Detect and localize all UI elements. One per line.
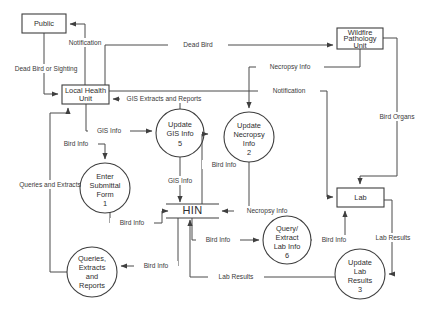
flow-label-necropsy-info-top: Necropsy Info (270, 63, 311, 71)
process-label-p6-line3: Lab Info (274, 242, 301, 251)
entity-label-wildfire-line3: Unit (353, 41, 366, 50)
process-label-p6-line2: Extract (276, 233, 299, 242)
process-label-p2-line3: Info (243, 139, 255, 148)
flow-label-bird-info-reports: Bird Info (144, 262, 169, 269)
flow-label-lab-results-update: Lab Results (376, 234, 412, 241)
entity-public[interactable]: Public (22, 14, 66, 33)
flow-gis-info-out: GIS Info (158, 157, 202, 202)
flow-label-notification-lab: Notification (273, 87, 306, 94)
process-label-p3-line2: Lab (354, 267, 366, 276)
flow-label-bird-info-hin: Bird Info (120, 219, 145, 226)
process-label-p1-line1: Enter (96, 172, 114, 181)
process-queries-extracts-reports[interactable]: Queries, Extracts and Reports (67, 247, 117, 297)
process-label-p2-line1: Update (237, 121, 261, 130)
flow-label-bird-info-gis: Bird Info (212, 161, 237, 168)
dfd-svg: Dead Bird or Sighting Notification Dead … (0, 0, 424, 310)
data-store-hin[interactable]: HIN (166, 204, 219, 218)
flow-lab-results-update: Lab Results (368, 200, 420, 274)
entity-label-public: Public (34, 19, 54, 28)
process-number-p1: 1 (103, 199, 107, 208)
flow-bird-organs: Bird Organs (360, 38, 422, 184)
flow-bird-info-lab: Bird Info (311, 211, 356, 244)
entity-label-lab: Lab (354, 193, 366, 202)
flow-lab-results-hin: Lab Results (190, 220, 335, 281)
process-query-extract-lab-info[interactable]: Query/ Extract Lab Info 6 (263, 216, 311, 264)
process-label-pq-line3: and (86, 272, 98, 281)
flow-bird-info-form: Bird Info (54, 139, 105, 159)
flow-label-gis-info-out: GIS Info (168, 177, 193, 184)
process-number-p6: 6 (285, 251, 289, 260)
flow-queries-and-extracts: Queries and Extracts (18, 108, 84, 272)
process-label-pq-line1: Queries, (78, 254, 106, 263)
process-label-p3-line1: Update (348, 258, 372, 267)
process-update-lab-results[interactable]: Update Lab Results 3 (335, 249, 385, 299)
process-number-p5: 5 (178, 139, 182, 148)
entity-label-local-health-unit-line2: Unit (79, 94, 92, 103)
flow-label-dead-bird: Dead Bird (183, 41, 213, 48)
process-label-p1-line2: Submittal (90, 181, 121, 190)
flow-label-queries-and-extracts: Queries and Extracts (19, 181, 81, 189)
process-label-p5-line1: Update (168, 120, 192, 129)
flow-bird-info-query: Bird Info (192, 218, 259, 244)
flow-label-notification-public: Notification (69, 39, 102, 46)
flow-label-bird-info-query: Bird Info (206, 236, 231, 243)
dfd-canvas: Dead Bird or Sighting Notification Dead … (0, 0, 424, 310)
flow-necropsy-info-top: Necropsy Info (249, 49, 360, 108)
process-label-p3-line3: Results (348, 276, 373, 285)
process-number-p2: 2 (247, 148, 251, 157)
flow-label-dead-bird-or-sighting: Dead Bird or Sighting (15, 65, 78, 73)
flow-label-bird-info-form: Bird Info (64, 140, 89, 147)
process-enter-submittal-form[interactable]: Enter Submittal Form 1 (80, 163, 130, 213)
process-label-p6-line1: Query/ (276, 224, 299, 233)
flow-label-bird-info-lab: Bird Info (322, 236, 347, 243)
entity-local-health-unit[interactable]: Local Health Unit (62, 85, 109, 104)
flow-bird-info-hin: Bird Info (110, 211, 168, 227)
flow-label-necropsy-info-hin: Necropsy Info (247, 207, 288, 215)
flow-necropsy-info-hin: Necropsy Info (222, 162, 300, 215)
process-label-p2-line2: Necropsy (233, 130, 265, 139)
flow-label-lab-results-hin: Lab Results (219, 273, 255, 280)
flow-label-bird-organs: Bird Organs (379, 113, 415, 121)
data-store-label-hin: HIN (182, 204, 202, 216)
entity-wildfire-pathology-unit[interactable]: Wildfire Pathology Unit (337, 28, 383, 50)
process-label-p1-line3: Form (96, 190, 113, 199)
process-number-p3: 3 (358, 285, 362, 294)
flow-gis-extracts-reports: GIS Extracts and Reports (113, 94, 208, 109)
flow-bird-info-gis: Bird Info (202, 134, 246, 204)
entity-lab[interactable]: Lab (337, 188, 384, 207)
flow-label-gis-extracts-reports: GIS Extracts and Reports (127, 95, 202, 103)
process-label-p5-line2: GIS Info (166, 129, 193, 138)
process-label-pq-line2: Extracts (79, 263, 106, 272)
process-update-gis-info[interactable]: Update GIS Info 5 (156, 109, 204, 157)
process-update-necropsy-info[interactable]: Update Necropsy Info 2 (224, 112, 274, 162)
flow-label-gis-info-in: GIS Info (97, 127, 122, 134)
flow-gis-info-in: GIS Info (86, 104, 152, 135)
process-label-pq-line4: Reports (79, 281, 105, 290)
